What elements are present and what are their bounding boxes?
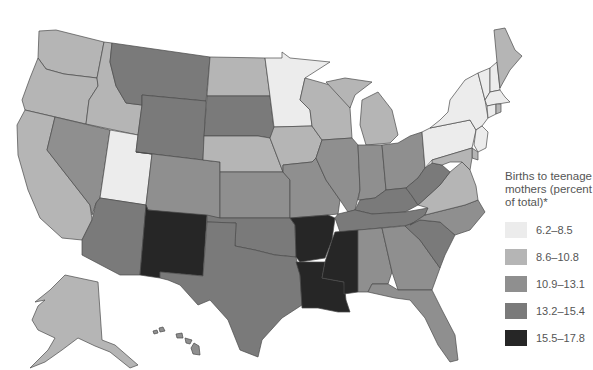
state-RI xyxy=(496,104,501,114)
legend-label: 6.2–8.5 xyxy=(536,224,573,236)
legend-swatch xyxy=(505,249,527,265)
state-NY xyxy=(430,73,488,130)
state-KS xyxy=(220,172,290,218)
legend-title: Births to teenage mothers (percent of to… xyxy=(505,170,593,209)
state-AK xyxy=(30,275,138,368)
legend-swatch xyxy=(505,276,527,292)
legend-swatch xyxy=(505,222,527,238)
state-IN xyxy=(358,145,386,200)
legend-item: 13.2–15.4 xyxy=(505,299,593,323)
legend-label: 13.2–15.4 xyxy=(536,305,585,317)
legend-swatch xyxy=(505,303,527,319)
legend-item: 6.2–8.5 xyxy=(505,218,593,242)
state-NM xyxy=(140,205,207,278)
state-ND xyxy=(207,57,270,96)
legend: Births to teenage mothers (percent of to… xyxy=(505,170,593,353)
state-NJ xyxy=(474,126,488,152)
state-MT xyxy=(110,43,210,105)
legend-label: 8.6–10.8 xyxy=(536,251,579,263)
state-WY xyxy=(136,95,206,160)
legend-item: 10.9–13.1 xyxy=(505,272,593,296)
state-FL xyxy=(368,284,458,362)
state-SD xyxy=(204,96,274,138)
legend-swatch xyxy=(505,330,527,346)
legend-item: 15.5–17.8 xyxy=(505,326,593,350)
legend-item: 8.6–10.8 xyxy=(505,245,593,269)
legend-label: 10.9–13.1 xyxy=(536,278,585,290)
legend-label: 15.5–17.8 xyxy=(536,332,585,344)
state-CT xyxy=(487,104,496,118)
state-HI xyxy=(153,327,200,355)
